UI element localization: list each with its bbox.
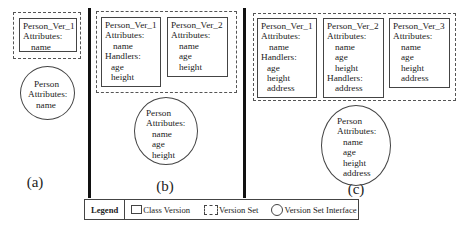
class-version-title: Person_Ver_1 bbox=[261, 21, 316, 31]
divider-bc bbox=[243, 8, 246, 198]
handler: age bbox=[261, 63, 316, 73]
legend-item-version-set-interface: Version Set Interface bbox=[258, 200, 356, 219]
handlers-label: Handlers: bbox=[105, 51, 160, 61]
attributes-label: Attributes: bbox=[28, 89, 74, 99]
solid-rectangle-icon bbox=[131, 205, 142, 214]
attribute: name bbox=[327, 42, 383, 52]
legend-label: Version Set Interface bbox=[284, 205, 356, 215]
attributes-label: Attributes: bbox=[105, 30, 160, 40]
handler: height bbox=[261, 73, 316, 83]
attributes-label: Attributes: bbox=[23, 31, 76, 41]
handlers-label: Handlers: bbox=[261, 52, 316, 62]
version-set-interface-a: Person Attributes: name bbox=[20, 66, 75, 120]
attribute: age bbox=[337, 147, 390, 157]
attribute: height bbox=[393, 63, 449, 73]
legend-item-version-set: Version Set bbox=[190, 200, 258, 219]
attribute: age bbox=[146, 139, 197, 149]
attributes-label: Attributes: bbox=[337, 126, 390, 136]
class-version-b-2: Person_Ver_2 Attributes: name age height bbox=[167, 17, 228, 77]
attribute: age bbox=[171, 51, 227, 61]
attribute: name bbox=[393, 42, 449, 52]
attribute: height bbox=[146, 150, 197, 160]
class-version-title: Person_Ver_2 bbox=[171, 20, 227, 30]
class-version-a-1: Person_Ver_1 Attributes: name bbox=[19, 18, 77, 52]
caption-b: (b) bbox=[145, 178, 185, 195]
legend: Legend Class Version Version Set Version… bbox=[84, 199, 359, 220]
attributes-label: Attributes: bbox=[393, 31, 449, 41]
attributes-label: Attributes: bbox=[146, 118, 197, 128]
attributes-label: Attributes: bbox=[171, 30, 227, 40]
attribute: name bbox=[171, 41, 227, 51]
attribute: address bbox=[337, 168, 390, 178]
attribute: name bbox=[337, 137, 390, 147]
attribute: name bbox=[261, 42, 316, 52]
handler: age bbox=[105, 62, 160, 72]
handler: height bbox=[105, 72, 160, 82]
version-set-interface-b: Person Attributes: name age height bbox=[134, 97, 198, 165]
attribute: name bbox=[105, 41, 160, 51]
attributes-label: Attributes: bbox=[327, 31, 383, 41]
attribute: age bbox=[393, 52, 449, 62]
attribute: name bbox=[23, 42, 76, 52]
class-version-c-2: Person_Ver_2 Attributes: name age height… bbox=[323, 18, 384, 98]
legend-title: Legend bbox=[85, 200, 125, 219]
caption-c: (c) bbox=[336, 181, 376, 198]
handlers-label: Handlers: bbox=[327, 73, 383, 83]
attribute: height bbox=[327, 63, 383, 73]
interface-title: Person bbox=[146, 108, 197, 118]
attribute: height bbox=[171, 62, 227, 72]
class-version-title: Person_Ver_3 bbox=[393, 21, 449, 31]
attribute: age bbox=[327, 52, 383, 62]
divider-ab bbox=[88, 8, 91, 198]
class-version-c-1: Person_Ver_1 Attributes: name Handlers: … bbox=[257, 18, 317, 98]
interface-title: Person bbox=[28, 79, 74, 89]
class-version-title: Person_Ver_2 bbox=[327, 21, 383, 31]
attribute: height bbox=[337, 158, 390, 168]
handler: address bbox=[261, 83, 316, 93]
attribute: name bbox=[28, 100, 74, 110]
caption-a: (a) bbox=[15, 174, 55, 191]
class-version-title: Person_Ver_1 bbox=[23, 21, 76, 31]
legend-label: Class Version bbox=[143, 205, 190, 215]
legend-item-class-version: Class Version bbox=[125, 200, 190, 219]
version-set-interface-c: Person Attributes: name age height addre… bbox=[321, 105, 391, 186]
class-version-title: Person_Ver_1 bbox=[105, 20, 160, 30]
handler: address bbox=[327, 83, 383, 93]
interface-title: Person bbox=[337, 116, 390, 126]
class-version-c-3: Person_Ver_3 Attributes: name age height… bbox=[389, 18, 450, 88]
class-version-b-1: Person_Ver_1 Attributes: name Handlers: … bbox=[101, 17, 161, 87]
attribute: address bbox=[393, 73, 449, 83]
attributes-label: Attributes: bbox=[261, 31, 316, 41]
legend-label: Version Set bbox=[219, 205, 258, 215]
circle-icon bbox=[271, 204, 283, 216]
attribute: name bbox=[146, 129, 197, 139]
dashed-rectangle-icon bbox=[204, 205, 218, 215]
